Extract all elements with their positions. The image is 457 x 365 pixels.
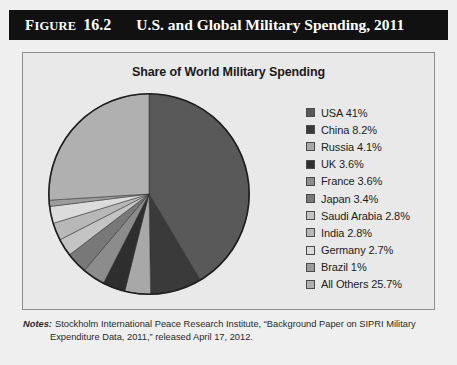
legend-item[interactable]: France 3.6%	[306, 173, 431, 190]
legend-swatch-icon	[306, 142, 315, 151]
legend-item-label: France 3.6%	[321, 175, 382, 187]
legend-item[interactable]: UK 3.6%	[306, 156, 431, 173]
figure-title: U.S. and Global Military Spending, 2011	[136, 16, 404, 34]
figure-number: 16.2	[83, 16, 111, 34]
notes-line-1: Stockholm International Peace Research I…	[55, 319, 416, 329]
legend-item[interactable]: Saudi Arabia 2.8%	[306, 207, 431, 224]
notes-line-2: Expenditure Data, 2011,” released April …	[23, 331, 435, 344]
legend-item[interactable]: All Others 25.7%	[306, 276, 431, 293]
figure-notes: Notes:Stockholm International Peace Rese…	[23, 318, 435, 343]
pie-chart	[47, 92, 251, 296]
legend-item-label: Japan 3.4%	[321, 193, 378, 205]
legend-swatch-icon	[306, 228, 315, 237]
notes-label: Notes:	[23, 319, 52, 329]
legend-item[interactable]: Japan 3.4%	[306, 190, 431, 207]
legend-swatch-icon	[306, 177, 315, 186]
legend-item-label: USA 41%	[321, 107, 367, 119]
figure-label-smallcaps: IGURE	[34, 19, 76, 33]
legend-swatch-icon	[306, 160, 315, 169]
legend-item[interactable]: Brazil 1%	[306, 259, 431, 276]
figure-label: FIGURE	[25, 17, 76, 34]
legend-item[interactable]: China 8.2%	[306, 121, 431, 138]
legend-item[interactable]: Russia 4.1%	[306, 138, 431, 155]
pie-slice-all-others	[49, 94, 149, 200]
chart-legend: USA 41%China 8.2%Russia 4.1%UK 3.6%Franc…	[306, 104, 431, 293]
legend-item-label: Russia 4.1%	[321, 141, 382, 153]
legend-swatch-icon	[306, 194, 315, 203]
pie-slice-group	[49, 94, 249, 294]
legend-item-label: Saudi Arabia 2.8%	[321, 210, 410, 222]
legend-item-label: India 2.8%	[321, 227, 372, 239]
legend-swatch-icon	[306, 246, 315, 255]
legend-swatch-icon	[306, 263, 315, 272]
legend-item[interactable]: Germany 2.7%	[306, 242, 431, 259]
chart-panel: Share of World Military Spending USA 41%…	[22, 52, 435, 310]
legend-item-label: China 8.2%	[321, 124, 377, 136]
legend-item-label: Germany 2.7%	[321, 244, 393, 256]
legend-item-label: Brazil 1%	[321, 261, 367, 273]
figure-header: FIGURE 16.2 U.S. and Global Military Spe…	[9, 10, 448, 40]
chart-title: Share of World Military Spending	[23, 65, 434, 79]
legend-item-label: UK 3.6%	[321, 158, 364, 170]
figure-label-initial: F	[25, 17, 34, 33]
pie-chart-svg	[47, 92, 251, 296]
legend-swatch-icon	[306, 108, 315, 117]
legend-item[interactable]: USA 41%	[306, 104, 431, 121]
legend-item-label: All Others 25.7%	[321, 278, 402, 290]
legend-swatch-icon	[306, 211, 315, 220]
legend-item[interactable]: India 2.8%	[306, 224, 431, 241]
legend-swatch-icon	[306, 125, 315, 134]
legend-swatch-icon	[306, 280, 315, 289]
